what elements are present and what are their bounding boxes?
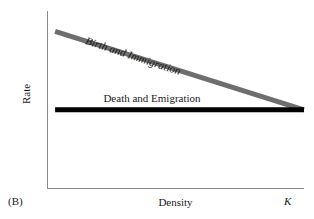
plot-lines: [0, 0, 314, 219]
death-and-emigration-label: Death and Emigration: [52, 92, 252, 104]
y-axis-label: Rate: [20, 66, 32, 122]
x-axis-tick-k: K: [284, 195, 291, 207]
panel-label: (B): [8, 195, 23, 207]
figure-panel-b: Birth and Immigration Death and Emigrati…: [0, 0, 314, 219]
x-axis-label: Density: [47, 196, 304, 208]
